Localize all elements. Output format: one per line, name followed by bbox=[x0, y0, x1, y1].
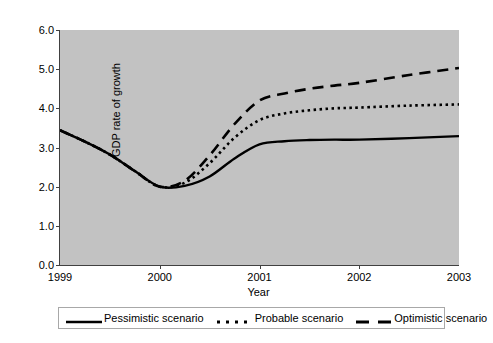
gdp-growth-scenarios-line-chart: 0.01.02.03.04.05.06.0 199920002001200220… bbox=[0, 0, 493, 343]
legend-label: Probable scenario bbox=[255, 313, 350, 324]
x-tick-label: 2003 bbox=[447, 272, 471, 283]
y-tick-label: 5.0 bbox=[39, 64, 54, 75]
legend-line-swatch bbox=[65, 313, 103, 323]
y-tick-mark bbox=[56, 187, 60, 188]
y-tick-mark bbox=[56, 226, 60, 227]
x-tick-mark bbox=[160, 265, 161, 269]
legend-entry[interactable]: Probable scenario bbox=[210, 313, 350, 324]
x-axis-title: Year bbox=[59, 286, 458, 298]
y-tick-mark bbox=[56, 148, 60, 149]
y-tick-mark bbox=[56, 69, 60, 70]
chart-legend: Pessimistic scenarioProbable scenarioOpt… bbox=[58, 307, 445, 329]
y-tick-label: 0.0 bbox=[39, 260, 54, 271]
y-tick-label: 1.0 bbox=[39, 220, 54, 231]
y-axis-title: GDP rate of growth bbox=[110, 10, 122, 210]
legend-label: Optimistic scenario bbox=[394, 313, 493, 324]
legend-label: Pessimistic scenario bbox=[104, 313, 210, 324]
x-tick-mark bbox=[359, 265, 360, 269]
y-tick-label: 6.0 bbox=[39, 25, 54, 36]
legend-line-swatch bbox=[355, 313, 393, 323]
legend-entry[interactable]: Optimistic scenario bbox=[349, 313, 493, 324]
plot-area: 0.01.02.03.04.05.06.0 199920002001200220… bbox=[59, 30, 459, 266]
x-tick-label: 2001 bbox=[247, 272, 271, 283]
x-tick-label: 2002 bbox=[347, 272, 371, 283]
y-tick-mark bbox=[56, 30, 60, 31]
y-tick-mark bbox=[56, 265, 60, 266]
y-tick-mark bbox=[56, 108, 60, 109]
legend-line-swatch bbox=[216, 313, 254, 323]
y-tick-label: 3.0 bbox=[39, 142, 54, 153]
y-tick-label: 4.0 bbox=[39, 103, 54, 114]
x-tick-mark bbox=[260, 265, 261, 269]
y-tick-label: 2.0 bbox=[39, 181, 54, 192]
legend-entry[interactable]: Pessimistic scenario bbox=[59, 313, 210, 324]
x-tick-label: 2000 bbox=[148, 272, 172, 283]
x-tick-label: 1999 bbox=[48, 272, 72, 283]
